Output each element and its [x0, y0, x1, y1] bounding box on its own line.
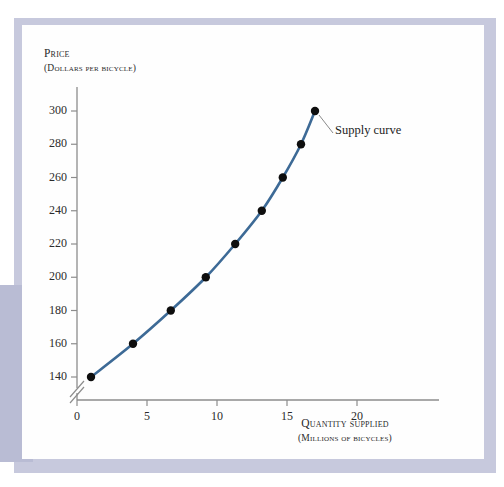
figure-page: Price (Dollars per bicycle) Quantity sup… [0, 0, 504, 487]
chart-canvas [22, 25, 484, 459]
y-tick-label: 280 [33, 136, 67, 151]
y-tick-label: 160 [33, 336, 67, 351]
y-tick-label: 260 [33, 170, 67, 185]
y-tick-label: 200 [33, 269, 67, 284]
y-tick-label: 240 [33, 203, 67, 218]
x-tick-label: 0 [62, 409, 92, 424]
y-tick-label: 220 [33, 236, 67, 251]
figure-card: Price (Dollars per bicycle) Quantity sup… [22, 25, 484, 459]
y-tick-label: 180 [33, 303, 67, 318]
supply-curve-chart: Price (Dollars per bicycle) Quantity sup… [22, 25, 484, 459]
x-tick-label: 5 [132, 409, 162, 424]
y-axis-title: Price (Dollars per bicycle) [44, 45, 136, 75]
supply-curve-annotation: Supply curve [335, 123, 401, 138]
data-series-group [91, 111, 315, 377]
y-tick-label: 140 [33, 369, 67, 384]
x-tick-label: 10 [202, 409, 232, 424]
x-axis-title-sub: (Millions of bicycles) [298, 432, 392, 446]
data-point-markers [87, 107, 319, 381]
annotation-leader-line [319, 115, 333, 133]
y-axis-title-sub: (Dollars per bicycle) [44, 62, 136, 76]
y-tick-label: 300 [33, 103, 67, 118]
y-axis-title-main: Price [44, 45, 136, 62]
x-tick-label: 15 [272, 409, 302, 424]
x-tick-label: 20 [342, 409, 372, 424]
